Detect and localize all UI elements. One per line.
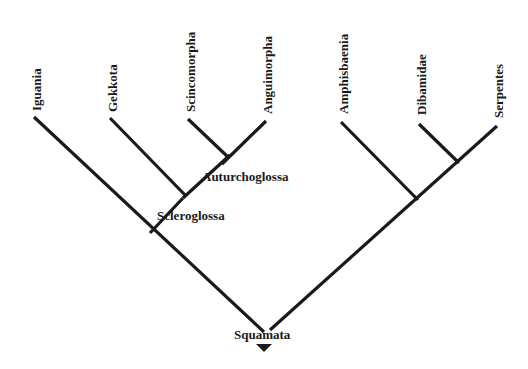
branch-scincomorpha <box>188 119 229 158</box>
taxon-label-gekkota: Gekkota <box>105 64 120 112</box>
branch-dibamidae <box>419 124 459 163</box>
taxon-label-anguimorpha: Anguimorpha <box>260 35 275 114</box>
taxon-label-amphisbaenia: Amphisbaenia <box>336 33 351 114</box>
branch-amphisbaenia <box>341 122 418 200</box>
taxon-label-serpentes: Serpentes <box>491 64 506 118</box>
branch-iguania <box>34 117 264 332</box>
clade-label-squamata: Squamata <box>234 327 291 342</box>
root-arrow-icon <box>256 344 272 352</box>
branch-gekkota <box>110 118 185 195</box>
clade-label-autarchoglossa: Auturchoglossa <box>202 169 289 184</box>
clade-label-scleroglossa: Scleroglossa <box>157 208 225 223</box>
taxon-label-iguania: Iguania <box>29 68 44 111</box>
branch-anguimorpha <box>222 121 266 164</box>
branch-serpentes <box>270 126 497 330</box>
taxon-label-scincomorpha: Scincomorpha <box>183 31 198 112</box>
taxon-label-dibamidae: Dibamidae <box>414 54 429 115</box>
cladogram: Iguania Gekkota Scincomorpha Anguimorpha… <box>0 0 528 369</box>
